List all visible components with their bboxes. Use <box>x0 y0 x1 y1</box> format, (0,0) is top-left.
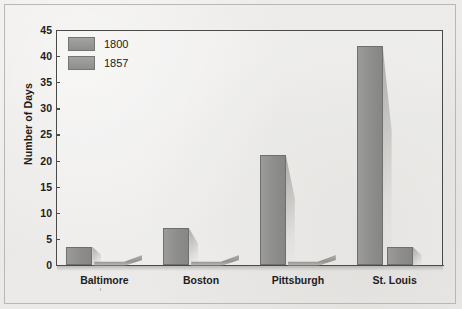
y-tick-mark <box>56 239 60 240</box>
y-tick-mark <box>56 161 60 162</box>
x-label-pittsburgh: Pittsburgh <box>248 274 348 286</box>
bar-baltimore-1800 <box>66 247 92 265</box>
bar-chart: Number of Days 051015202530354045 Baltim… <box>0 0 462 309</box>
y-tick-label: 20 <box>30 156 52 166</box>
bar-stlouis-1800 <box>357 46 383 265</box>
y-tick-label: 35 <box>30 77 52 87</box>
y-tick-mark <box>56 82 60 83</box>
y-axis-ticks: 051015202530354045 <box>28 0 52 309</box>
legend-label-1800: 1800 <box>104 38 128 51</box>
y-tick-mark <box>56 56 60 57</box>
y-tick-label: 0 <box>30 260 52 270</box>
bar-stlouis-1857 <box>387 247 413 265</box>
legend-label-1857: 1857 <box>104 57 128 70</box>
y-tick-mark <box>56 134 60 135</box>
y-tick-mark <box>56 187 60 188</box>
x-label-baltimore: Baltimore <box>54 274 154 286</box>
legend: 1800 1857 <box>68 36 178 76</box>
y-tick-label: 25 <box>30 129 52 139</box>
y-tick-mark <box>56 108 60 109</box>
y-tick-label: 40 <box>30 51 52 61</box>
bar-pittsburgh-1800 <box>260 155 286 265</box>
y-tick-mark <box>56 30 60 31</box>
legend-swatch-1800 <box>68 37 95 51</box>
scan-speck <box>100 288 101 291</box>
y-tick-label: 5 <box>30 234 52 244</box>
legend-swatch-1857 <box>68 56 95 70</box>
bar-boston-1800 <box>163 228 189 265</box>
x-label-stlouis: St. Louis <box>345 274 445 286</box>
y-tick-label: 30 <box>30 103 52 113</box>
y-tick-label: 45 <box>30 25 52 35</box>
y-tick-label: 10 <box>30 208 52 218</box>
y-tick-mark <box>56 213 60 214</box>
x-label-boston: Boston <box>151 274 251 286</box>
y-tick-mark <box>56 265 60 266</box>
y-tick-label: 15 <box>30 182 52 192</box>
